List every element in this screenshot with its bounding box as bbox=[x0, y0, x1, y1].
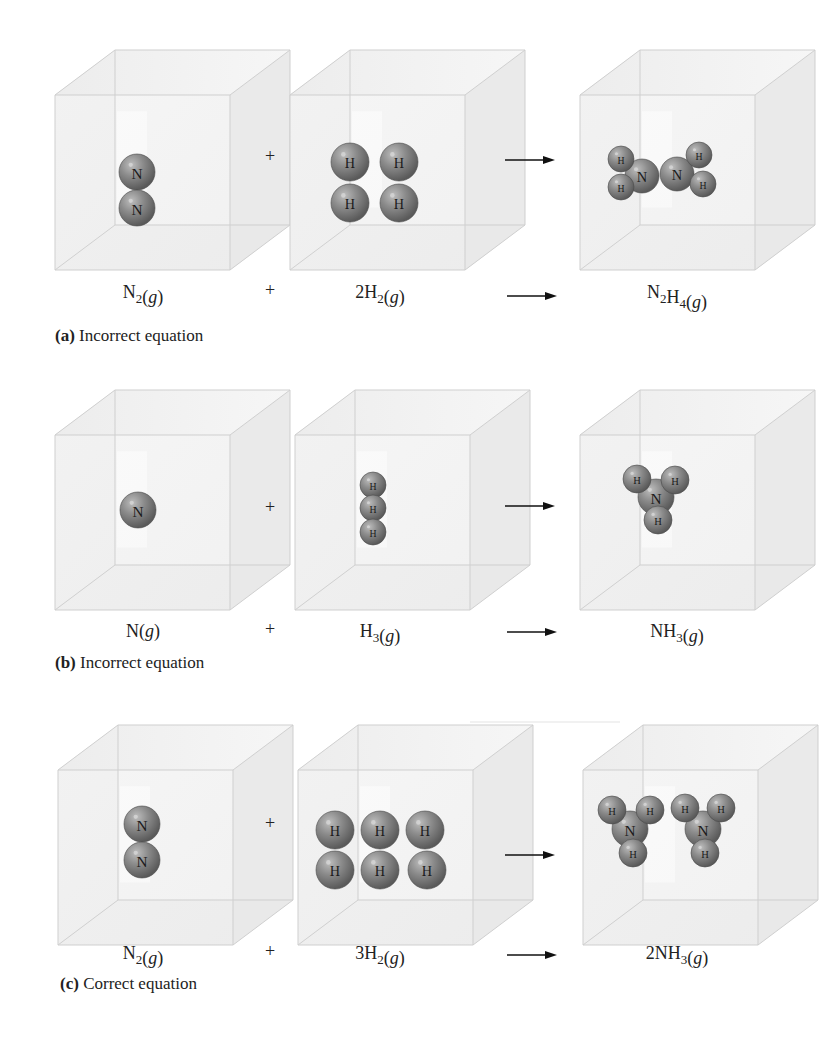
atom-label: H bbox=[608, 806, 616, 817]
cube-b-1 bbox=[55, 390, 290, 610]
atom-label: N bbox=[136, 853, 147, 870]
atom-label: H bbox=[617, 183, 624, 194]
equation-plus-a: + bbox=[265, 280, 275, 300]
atom-label: H bbox=[695, 151, 702, 162]
caption-a: (a) Incorrect equation bbox=[55, 326, 204, 345]
atom-h: H bbox=[686, 142, 712, 168]
atom-n: N bbox=[124, 842, 160, 878]
atom-h: H bbox=[661, 466, 689, 494]
atom-n: N bbox=[119, 154, 155, 190]
atom-label: H bbox=[633, 475, 641, 486]
atom-label: H bbox=[375, 823, 385, 839]
atom-label: H bbox=[375, 863, 385, 879]
reactant2-c: 3H2(g) bbox=[355, 943, 405, 969]
atom-label: H bbox=[369, 504, 376, 515]
atom-label: H bbox=[654, 516, 662, 527]
atom-label: H bbox=[345, 155, 355, 171]
atom-h: H bbox=[361, 851, 399, 889]
atom-h: H bbox=[361, 811, 399, 849]
atom-h: H bbox=[316, 811, 354, 849]
atom-h: H bbox=[608, 174, 634, 200]
atom-h: H bbox=[608, 146, 634, 172]
atom-n: N bbox=[124, 806, 160, 842]
atom-label: H bbox=[369, 481, 376, 492]
atom-label: H bbox=[671, 476, 679, 487]
atom-label: N bbox=[637, 169, 648, 185]
plus-sign-c-box: + bbox=[265, 813, 275, 833]
atom-h: H bbox=[331, 184, 369, 222]
caption-c: (c) Correct equation bbox=[60, 974, 197, 993]
atom-label: H bbox=[681, 804, 689, 815]
atom-h: H bbox=[408, 851, 446, 889]
equation-arrow-c bbox=[507, 951, 557, 959]
atom-label: H bbox=[699, 180, 706, 191]
plus-sign-b-box: + bbox=[265, 497, 275, 517]
equation-plus-c: + bbox=[265, 941, 275, 961]
atom-label: H bbox=[394, 196, 404, 212]
caption-b: (b) Incorrect equation bbox=[55, 653, 205, 672]
equation-b: N(g)+H3(g)NH3(g) bbox=[126, 619, 704, 647]
equation-plus-b: + bbox=[265, 619, 275, 639]
atom-label: H bbox=[394, 155, 404, 171]
cube-a-1 bbox=[55, 50, 290, 270]
atom-h: H bbox=[316, 851, 354, 889]
atom-label: N bbox=[131, 165, 142, 182]
atom-h: H bbox=[380, 184, 418, 222]
reaction-figure: NNHHHHNNHHHHNHHHNHHHNNHHHHHHNHHHNHHH +++… bbox=[0, 0, 827, 1040]
atom-label: H bbox=[345, 196, 355, 212]
atom-label: N bbox=[650, 490, 661, 507]
atom-h: H bbox=[636, 796, 664, 824]
product-a: N2H4(g) bbox=[647, 282, 707, 313]
atom-h: H bbox=[619, 839, 647, 867]
atom-h: H bbox=[360, 495, 386, 521]
atom-label: N bbox=[624, 822, 635, 839]
atom-h: H bbox=[690, 171, 716, 197]
atom-h: H bbox=[623, 465, 651, 493]
atom-label: H bbox=[701, 849, 709, 860]
atom-label: N bbox=[132, 503, 143, 520]
reactant1-b: N(g) bbox=[126, 621, 160, 642]
atom-h: H bbox=[380, 143, 418, 181]
atom-label: H bbox=[629, 849, 637, 860]
atom-label: H bbox=[330, 823, 340, 839]
reactant2-a: 2H2(g) bbox=[355, 282, 405, 308]
atom-label: H bbox=[330, 863, 340, 879]
atom-n: N bbox=[120, 492, 156, 528]
product-b: NH3(g) bbox=[650, 621, 704, 647]
equation-arrow-a bbox=[507, 292, 557, 300]
atom-label: H bbox=[422, 863, 432, 879]
atom-h: H bbox=[331, 143, 369, 181]
atom-label: N bbox=[672, 167, 683, 183]
cube-c-1 bbox=[58, 725, 293, 945]
reactant2-b: H3(g) bbox=[360, 621, 401, 647]
atom-label: H bbox=[420, 823, 430, 839]
atom-h: H bbox=[691, 839, 719, 867]
product-c: 2NH3(g) bbox=[646, 943, 709, 969]
equation-arrow-b bbox=[507, 628, 557, 636]
atom-n: N bbox=[119, 190, 155, 226]
plus-sign-a-box: + bbox=[265, 146, 275, 166]
atom-h: H bbox=[598, 796, 626, 824]
atom-label: H bbox=[717, 804, 725, 815]
atom-h: H bbox=[406, 811, 444, 849]
atom-h: H bbox=[360, 519, 386, 545]
equation-a: N2(g)+2H2(g)N2H4(g) bbox=[123, 280, 707, 313]
cube-b-2 bbox=[295, 390, 530, 610]
atom-label: N bbox=[131, 201, 142, 218]
reactant1-a: N2(g) bbox=[123, 282, 164, 308]
atom-label: H bbox=[617, 155, 624, 166]
atom-label: H bbox=[646, 806, 654, 817]
atom-label: N bbox=[697, 822, 708, 839]
atom-label: H bbox=[369, 528, 376, 539]
atom-h: H bbox=[671, 794, 699, 822]
atom-h: H bbox=[644, 506, 672, 534]
cube-b-3 bbox=[580, 390, 815, 610]
reactant1-c: N2(g) bbox=[123, 943, 164, 969]
atom-h: H bbox=[360, 472, 386, 498]
atom-h: H bbox=[707, 794, 735, 822]
atom-label: N bbox=[136, 817, 147, 834]
